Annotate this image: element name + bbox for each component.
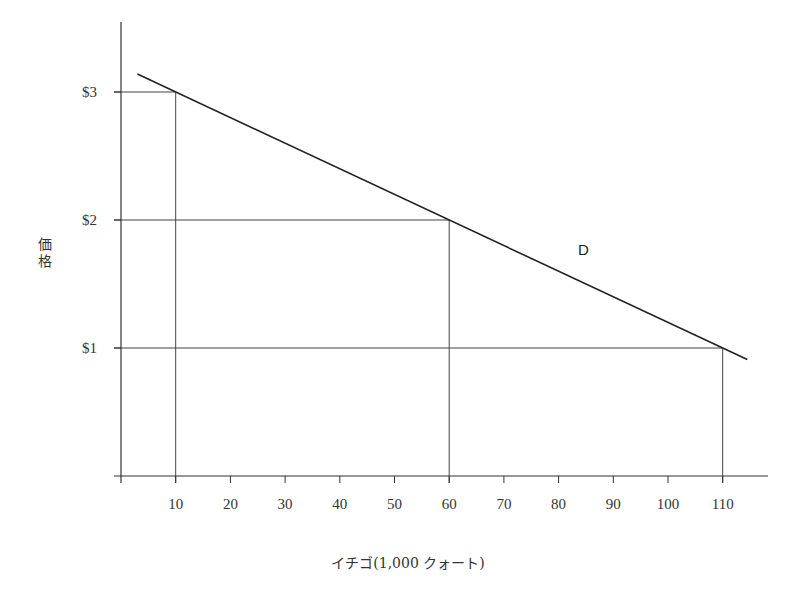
x-tick-label: 80 <box>551 496 566 512</box>
x-tick-label: 60 <box>442 496 457 512</box>
demand-curve <box>137 74 747 359</box>
x-tick-label: 110 <box>712 496 734 512</box>
x-tick-label: 90 <box>606 496 621 512</box>
demand-chart: 102030405060708090100110$1$2$3 D 価 格 イチゴ… <box>0 0 793 589</box>
x-tick-label: 20 <box>223 496 238 512</box>
x-tick-label: 50 <box>387 496 402 512</box>
y-tick-label: $1 <box>82 340 97 356</box>
curve-label-d: D <box>578 241 589 258</box>
guide-lines <box>114 92 723 483</box>
x-tick-label: 100 <box>657 496 680 512</box>
axes <box>114 22 768 483</box>
y-axis-title-2: 格 <box>38 253 52 269</box>
demand-curve-line <box>137 74 747 359</box>
y-axis-title-1: 価 <box>38 236 52 252</box>
y-tick-label: $3 <box>82 84 97 100</box>
x-tick-label: 40 <box>332 496 347 512</box>
x-axis-title: イチゴ(1,000 クォート) <box>331 555 484 571</box>
tick-labels: 102030405060708090100110$1$2$3 <box>82 84 734 512</box>
x-tick-label: 70 <box>496 496 511 512</box>
x-tick-label: 30 <box>278 496 293 512</box>
y-tick-label: $2 <box>82 212 97 228</box>
x-tick-label: 10 <box>168 496 183 512</box>
